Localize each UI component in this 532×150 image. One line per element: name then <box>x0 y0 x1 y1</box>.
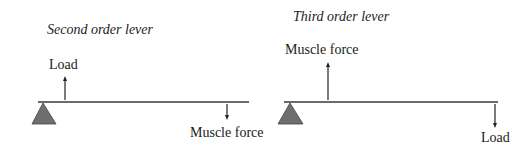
triangle-fulcrum-icon <box>278 103 303 124</box>
third-order-lever-graphic <box>0 0 532 150</box>
arrow-down-icon <box>493 104 497 128</box>
arrow-up-icon <box>326 62 330 100</box>
